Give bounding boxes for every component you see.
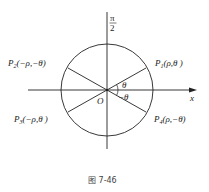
axis-x-label: x	[189, 93, 194, 103]
point-label-p4: P4(ρ,−θ)	[153, 114, 186, 125]
axis-arrow-icon	[189, 88, 197, 93]
axis-top-label-den: 2	[110, 23, 115, 33]
polar-symmetry-diagram: π 2 x O θ −θ P1(ρ,θ ) P2(−ρ,−θ) P3(−ρ,θ …	[0, 0, 209, 192]
axis-top-label-num: π	[110, 13, 115, 23]
point-label-p3: P3(−ρ,θ )	[13, 114, 48, 125]
angle-theta-label: θ	[122, 80, 127, 90]
angle-neg-theta-label: −θ	[118, 92, 129, 102]
origin-point	[106, 89, 108, 91]
angle-arc-theta	[117, 85, 118, 90]
point-label-p2: P2(−ρ,−θ)	[7, 58, 46, 69]
origin-label: O	[97, 96, 104, 106]
figure-caption: 图 7-46	[88, 176, 117, 185]
point-label-p1: P1(ρ,θ )	[154, 58, 183, 69]
